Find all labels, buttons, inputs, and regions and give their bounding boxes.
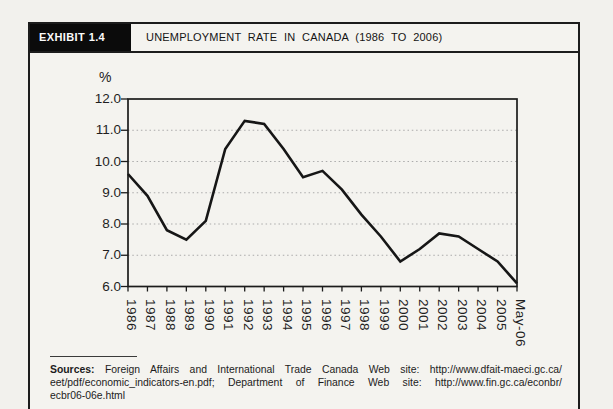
unemployment-rate-line <box>128 121 517 284</box>
y-axis-label: 12.0 <box>79 91 121 106</box>
sources-line-2: eet/pdf/economic_indicators-en.pdf; Depa… <box>50 376 562 389</box>
x-axis-label: 1986 <box>124 299 139 331</box>
x-axis-label: 1999 <box>377 299 392 331</box>
sources-divider-rule <box>50 356 137 357</box>
x-axis-label: 2002 <box>435 299 450 331</box>
x-axis-label: 2000 <box>396 299 411 331</box>
y-axis-label: 6.0 <box>79 279 121 294</box>
x-axis-label: 1987 <box>143 299 158 331</box>
x-axis-label: May-06 <box>513 299 528 347</box>
x-axis-label: 1995 <box>299 299 314 331</box>
sources-label: Sources: <box>50 364 94 375</box>
x-axis-label: 1997 <box>338 299 353 331</box>
x-axis-label: 1990 <box>202 299 217 331</box>
sources-line-1-text: Foreign Affairs and International Trade … <box>105 364 562 375</box>
x-axis-label: 1993 <box>260 299 275 331</box>
x-axis-label: 1994 <box>280 299 295 331</box>
y-axis-label: 9.0 <box>79 185 121 200</box>
x-axis-label: 1992 <box>241 299 256 331</box>
y-axis-unit-label: % <box>99 69 111 85</box>
x-axis-label: 1998 <box>357 299 372 331</box>
unemployment-line-chart <box>0 0 613 409</box>
x-axis-label: 2005 <box>494 299 509 331</box>
sources-line-1: Sources: Foreign Affairs and Internation… <box>50 363 562 376</box>
x-axis-label: 1991 <box>221 299 236 331</box>
sources-line-3: ecbr06-06e.html <box>50 389 562 402</box>
y-axis-label: 8.0 <box>79 216 121 231</box>
x-axis-label: 2004 <box>474 299 489 331</box>
y-axis-label: 7.0 <box>79 247 121 262</box>
x-axis-label: 2003 <box>455 299 470 331</box>
x-axis-label: 1996 <box>319 299 334 331</box>
y-axis-label: 11.0 <box>79 122 121 137</box>
scanned-page: { "header": { "exhibit_label": "EXHIBIT … <box>0 0 613 409</box>
y-axis-label: 10.0 <box>79 154 121 169</box>
x-axis-label: 2001 <box>416 299 431 331</box>
sources-note: Sources: Foreign Affairs and Internation… <box>50 363 562 402</box>
x-axis-label: 1989 <box>182 299 197 331</box>
x-axis-label: 1988 <box>163 299 178 331</box>
